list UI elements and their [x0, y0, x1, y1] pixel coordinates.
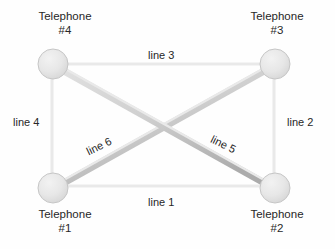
edge-label-line-2: line 2 — [287, 116, 313, 129]
node-telephone-2 — [260, 173, 290, 203]
node-label-telephone-2: Telephone #2 — [232, 208, 322, 235]
node-telephone-3 — [260, 49, 290, 79]
node-label-telephone-1-line2: #1 — [20, 222, 110, 236]
node-label-telephone-3: Telephone #3 — [232, 10, 322, 37]
edge-label-line-3: line 3 — [148, 49, 174, 62]
node-telephone-1 — [38, 173, 68, 203]
node-telephone-4 — [38, 49, 68, 79]
telephone-network-diagram: Telephone #4 Telephone #3 Telephone #1 T… — [0, 0, 335, 249]
node-label-telephone-4-line2: #4 — [20, 24, 110, 38]
node-label-telephone-1: Telephone #1 — [20, 208, 110, 235]
node-label-telephone-2-line2: #2 — [232, 222, 322, 236]
edge-label-line-1: line 1 — [148, 196, 174, 209]
node-label-telephone-3-line2: #3 — [232, 24, 322, 38]
node-label-telephone-4-line1: Telephone — [20, 10, 110, 24]
node-label-telephone-4: Telephone #4 — [20, 10, 110, 37]
node-label-telephone-3-line1: Telephone — [232, 10, 322, 24]
edge-label-line-4: line 4 — [13, 116, 39, 129]
node-label-telephone-1-line1: Telephone — [20, 208, 110, 222]
node-label-telephone-2-line1: Telephone — [232, 208, 322, 222]
